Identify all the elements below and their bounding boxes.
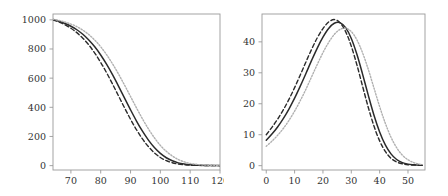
series-dashed-curve bbox=[266, 20, 422, 166]
x-tick-label: 110 bbox=[181, 175, 199, 186]
x-tick-label: 0 bbox=[263, 175, 269, 186]
y-tick-label: 400 bbox=[28, 102, 46, 113]
x-tick-label: 20 bbox=[317, 175, 329, 186]
x-tick-label: 120 bbox=[211, 175, 224, 186]
series-group bbox=[266, 20, 422, 166]
series-dotted-gray-curve bbox=[266, 28, 422, 164]
x-tick-label: 10 bbox=[289, 175, 301, 186]
series-solid-curve bbox=[266, 22, 422, 165]
y-tick-label: 1000 bbox=[22, 14, 46, 25]
series-dashed-curve bbox=[53, 20, 220, 166]
x-tick-label: 90 bbox=[124, 175, 136, 186]
y-tick-label: 800 bbox=[28, 43, 46, 54]
x-tick-label: 70 bbox=[65, 175, 77, 186]
figure-container: 70809010011012002004006008001000 0102030… bbox=[0, 0, 448, 196]
chart-panel-left: 70809010011012002004006008001000 bbox=[0, 0, 224, 196]
chart-panel-right: 01020304050010203040 bbox=[224, 0, 448, 196]
plot-right: 01020304050010203040 bbox=[224, 0, 448, 196]
y-tick-label: 0 bbox=[249, 160, 255, 171]
y-tick-label: 30 bbox=[243, 67, 255, 78]
series-dotted-gray-curve bbox=[53, 19, 220, 165]
plot-frame bbox=[53, 14, 220, 170]
plot-left: 70809010011012002004006008001000 bbox=[0, 0, 224, 196]
series-group bbox=[53, 19, 220, 165]
x-tick-label: 80 bbox=[95, 175, 107, 186]
series-solid-curve bbox=[53, 20, 220, 166]
y-tick-label: 200 bbox=[28, 131, 46, 142]
x-tick-label: 100 bbox=[151, 175, 169, 186]
y-tick-label: 10 bbox=[243, 129, 255, 140]
y-tick-label: 40 bbox=[243, 36, 255, 47]
plot-frame bbox=[262, 14, 425, 170]
x-tick-label: 50 bbox=[402, 175, 414, 186]
y-tick-label: 600 bbox=[28, 73, 46, 84]
y-tick-label: 0 bbox=[40, 160, 46, 171]
x-tick-label: 30 bbox=[345, 175, 357, 186]
y-tick-label: 20 bbox=[243, 98, 255, 109]
x-tick-label: 40 bbox=[374, 175, 386, 186]
